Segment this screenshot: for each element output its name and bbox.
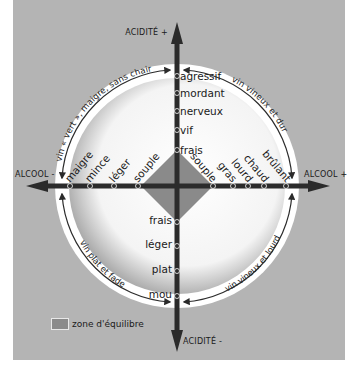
acidity-label: nerveux	[180, 105, 223, 117]
acidity-label: léger	[145, 238, 173, 250]
acidity-label: frais	[149, 214, 172, 226]
legend: zone d'équilibre	[51, 318, 144, 330]
arrow-up-icon	[171, 22, 183, 44]
acidity-label: vif	[180, 124, 193, 136]
arrow-right-icon	[308, 180, 330, 192]
arrow-down-icon	[171, 330, 183, 352]
label-alcool-minus: ALCOOL -	[15, 170, 55, 179]
legend-label: zone d'équilibre	[72, 319, 144, 329]
acidity-label: mou	[149, 288, 172, 300]
legend-swatch	[51, 318, 69, 330]
acidity-label: agressif	[180, 70, 222, 82]
wine-balance-diagram: ACIDITÉ + ACIDITÉ - ALCOOL - ALCOOL + ag…	[0, 0, 358, 372]
acidity-label: mordant	[180, 87, 225, 99]
label-alcool-plus: ALCOOL +	[304, 170, 347, 179]
acidity-label: plat	[152, 263, 172, 275]
label-acidite-plus: ACIDITÉ +	[125, 26, 168, 37]
arrow-left-icon	[26, 180, 48, 192]
label-acidite-minus: ACIDITÉ -	[183, 335, 222, 346]
